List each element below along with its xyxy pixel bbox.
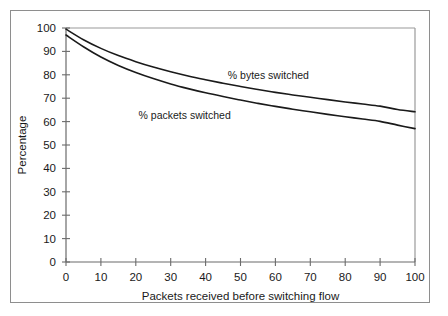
x-tick-label: 30: [164, 271, 177, 283]
y-tick-label: 60: [43, 116, 56, 128]
series-annotation-2: % packets switched: [139, 109, 231, 121]
x-tick-label: 100: [405, 271, 424, 283]
y-tick-label: 70: [43, 92, 56, 104]
y-axis-title: Percentage: [16, 116, 28, 175]
chart-figure: 0102030405060708090100010203040506070809…: [0, 0, 448, 316]
x-tick-label: 80: [339, 271, 352, 283]
y-tick-label: 40: [43, 162, 56, 174]
y-tick-label: 10: [43, 233, 56, 245]
y-tick-label: 0: [50, 256, 56, 268]
y-tick-label: 50: [43, 139, 56, 151]
y-tick-label: 30: [43, 186, 56, 198]
y-tick-label: 100: [37, 22, 56, 34]
series-line-2: [66, 35, 415, 129]
x-tick-label: 70: [304, 271, 317, 283]
y-tick-label: 90: [43, 45, 56, 57]
x-tick-label: 10: [95, 271, 108, 283]
y-tick-label: 80: [43, 69, 56, 81]
x-tick-label: 50: [234, 271, 247, 283]
x-axis-title: Packets received before switching flow: [142, 290, 340, 302]
series-annotation-1: % bytes switched: [228, 69, 309, 81]
x-tick-label: 20: [129, 271, 142, 283]
line-chart: 0102030405060708090100010203040506070809…: [0, 0, 448, 316]
x-tick-label: 0: [63, 271, 69, 283]
x-tick-label: 60: [269, 271, 282, 283]
x-tick-label: 90: [374, 271, 387, 283]
y-tick-label: 20: [43, 209, 56, 221]
x-tick-label: 40: [199, 271, 212, 283]
